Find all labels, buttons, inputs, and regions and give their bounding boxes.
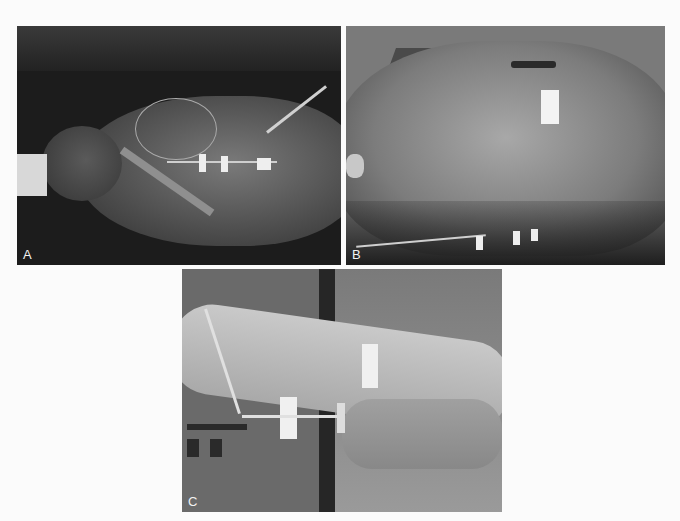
catheter-hub — [511, 61, 556, 68]
tape-strip — [199, 154, 206, 172]
catheter-line — [242, 415, 337, 418]
tape-strip — [280, 397, 297, 439]
horse-head — [42, 126, 122, 201]
marking — [187, 424, 247, 430]
limb-lower — [342, 399, 502, 469]
tape-strip — [362, 344, 378, 388]
tape-strip — [221, 156, 228, 172]
thumb — [346, 154, 364, 178]
tape-strip — [541, 90, 559, 124]
panel-label-a: A — [23, 248, 32, 261]
figure-panel-c: C — [182, 269, 502, 512]
stopcock — [513, 231, 520, 245]
figure-panel-b: B — [346, 26, 665, 265]
stopcock — [337, 403, 345, 433]
panel-label-b: B — [352, 248, 361, 261]
marking — [210, 439, 222, 457]
figure-panel-a: A — [17, 26, 341, 265]
tape-strip — [257, 158, 271, 170]
stopcock — [531, 229, 538, 241]
tubing-loop — [135, 98, 217, 160]
stopcock — [476, 236, 483, 250]
figure-caption-clipped — [64, 516, 584, 521]
dark-jaw-shadow — [346, 201, 665, 265]
towel — [17, 154, 47, 196]
panel-label-c: C — [188, 495, 197, 508]
marking — [187, 439, 199, 457]
surgical-table-background — [17, 26, 341, 71]
